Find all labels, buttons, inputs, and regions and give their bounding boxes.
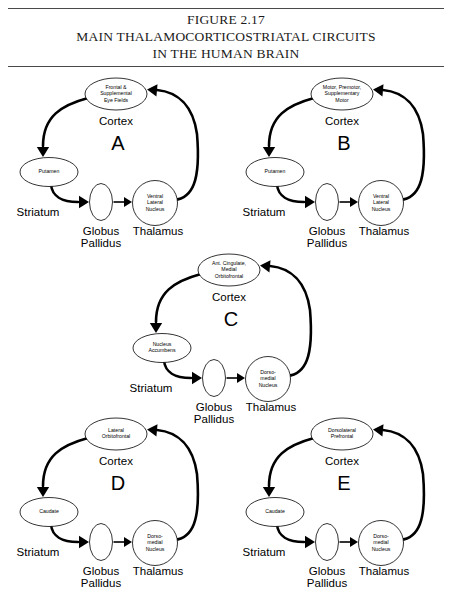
arrowhead-cortex-to-striatum [263, 487, 275, 497]
globus-pallidus-node-c[interactable] [203, 360, 226, 397]
globus-label: Globus [83, 565, 120, 577]
arrowhead-thalamus-to-cortex [147, 424, 158, 436]
globus-label: Globus [83, 225, 120, 237]
cortex-node-text-line-3: Motor [335, 97, 349, 103]
globus-pallidus-node-b[interactable] [316, 184, 339, 221]
thalamus-node-text-line-2: medial [260, 375, 275, 381]
arrowhead-striatum-to-globus-pallidus [79, 196, 89, 208]
globus-pallidus-node-e[interactable] [316, 524, 339, 561]
striatum-node-text-line-1: Nucleus [153, 341, 172, 347]
arrowhead-globus-pallidus-to-thalamus [124, 537, 132, 547]
cortex-node-text-line-1: Frontal & [105, 84, 127, 90]
arrow-cortex-to-striatum [269, 438, 314, 486]
circuit-diagram-e: DorsolateralPrefrontalCaudateDorso-media… [226, 412, 452, 588]
cortex-node-text-line-2: Supplementary [325, 90, 360, 96]
thalamus-label: Thalamus [359, 225, 410, 237]
cortex-node-text-line-1: Dorsolateral [328, 427, 356, 433]
striatum-label: Striatum [243, 206, 286, 218]
title-line-3: IN THE HUMAN BRAIN [0, 45, 452, 62]
thalamus-node-text-line-3: Nucleus [146, 546, 165, 552]
circuit-letter: C [224, 308, 238, 330]
circuit-c: Ant. Cingulate,MedialOrbitofrontalNucleu… [113, 248, 339, 424]
thalamus-node-text-line-1: Dorso- [260, 369, 276, 375]
arrowhead-thalamus-to-cortex [147, 84, 158, 96]
thalamus-node-text-line-1: Ventral [147, 193, 163, 199]
pallidus-label: Pallidus [81, 237, 122, 248]
thalamus-node-text-line-2: medial [373, 539, 388, 545]
cortex-node-text-line-3: Eye Fields [104, 97, 129, 103]
cortex-label: Cortex [99, 455, 133, 467]
pallidus-label: Pallidus [307, 577, 348, 588]
top-rule [8, 8, 444, 9]
arrowhead-globus-pallidus-to-thalamus [350, 537, 358, 547]
pallidus-label: Pallidus [307, 237, 348, 248]
cortex-label: Cortex [212, 291, 246, 303]
striatum-label: Striatum [130, 382, 173, 394]
figure-title: FIGURE 2.17 MAIN THALAMOCORTICOSTRIATAL … [0, 11, 452, 62]
striatum-label: Striatum [243, 546, 286, 558]
circuit-letter: E [337, 472, 350, 494]
arrowhead-thalamus-to-cortex [373, 424, 384, 436]
circuit-e: DorsolateralPrefrontalCaudateDorso-media… [226, 412, 452, 588]
thalamus-node-text-line-1: Dorso- [147, 533, 163, 539]
cortex-node-text-line-1: Lateral [108, 427, 124, 433]
thalamus-node-text-line-3: Nucleus [259, 382, 278, 388]
arrowhead-globus-pallidus-to-thalamus [350, 197, 358, 207]
arrowhead-striatum-to-globus-pallidus [192, 372, 202, 384]
thalamus-node-text-line-1: Ventral [373, 193, 389, 199]
cortex-node-text-line-2: Orbitofrontal [102, 433, 131, 439]
circuit-diagram-a: Frontal &SupplementalEye FieldsPutamenVe… [0, 72, 226, 248]
arrow-striatum-to-globus-pallidus [51, 185, 78, 203]
striatum-node-text-line-1: Putamen [265, 168, 286, 174]
thalamus-node-text-line-3: Nucleus [372, 206, 391, 212]
striatum-node-text-line-2: Accumbens [148, 347, 176, 353]
globus-pallidus-node-a[interactable] [90, 184, 113, 221]
cortex-node-text-line-2: Prefrontal [331, 433, 354, 439]
title-line-1: FIGURE 2.17 [0, 11, 452, 28]
thalamus-node-text-line-3: Nucleus [146, 206, 165, 212]
thalamus-label: Thalamus [133, 565, 184, 577]
arrowhead-globus-pallidus-to-thalamus [124, 197, 132, 207]
arrowhead-thalamus-to-cortex [373, 84, 384, 96]
arrowhead-striatum-to-globus-pallidus [305, 536, 315, 548]
striatum-node-text-line-1: Caudate [265, 508, 285, 514]
cortex-node-text-line-2: Supplemental [100, 90, 132, 96]
thalamus-label: Thalamus [359, 565, 410, 577]
circuit-diagram-b: Motor, Premotor,SupplementaryMotorPutame… [226, 72, 452, 248]
thalamus-node-text-line-2: Lateral [147, 199, 163, 205]
thalamus-node-text-line-1: Dorso- [373, 533, 389, 539]
arrowhead-cortex-to-striatum [263, 147, 275, 157]
thalamus-label: Thalamus [133, 225, 184, 237]
cortex-node-text-line-1: Ant. Cingulate, [212, 260, 246, 266]
cortex-node-text-line-3: Orbitofrontal [215, 273, 244, 279]
cortex-node-text-line-1: Motor, Premotor, [323, 84, 361, 90]
globus-label: Globus [309, 565, 346, 577]
striatum-node-text-line-1: Caudate [39, 508, 59, 514]
circuit-letter: A [111, 132, 125, 154]
arrow-striatum-to-globus-pallidus [277, 525, 304, 543]
globus-pallidus-node-d[interactable] [90, 524, 113, 561]
circuit-diagram-c: Ant. Cingulate,MedialOrbitofrontalNucleu… [113, 248, 339, 424]
arrow-striatum-to-globus-pallidus [277, 185, 304, 203]
circuit-diagram-d: LateralOrbitofrontalCaudateDorso-medialN… [0, 412, 226, 588]
thalamus-node-text-line-2: Lateral [373, 199, 389, 205]
striatum-node-text-line-1: Putamen [39, 168, 60, 174]
arrow-cortex-to-striatum [43, 438, 88, 486]
arrow-cortex-to-striatum [156, 274, 201, 322]
thalamus-node-text-line-2: medial [147, 539, 162, 545]
striatum-label: Striatum [17, 546, 60, 558]
pallidus-label: Pallidus [81, 577, 122, 588]
circuit-b: Motor, Premotor,SupplementaryMotorPutame… [226, 72, 452, 248]
arrowhead-cortex-to-striatum [37, 487, 49, 497]
circuit-letter: D [111, 472, 125, 494]
bottom-rule [8, 66, 444, 67]
cortex-label: Cortex [325, 455, 359, 467]
arrowhead-globus-pallidus-to-thalamus [237, 373, 245, 383]
thalamus-node-text-line-3: Nucleus [372, 546, 391, 552]
arrowhead-striatum-to-globus-pallidus [79, 536, 89, 548]
arrow-cortex-to-striatum [269, 98, 314, 146]
arrow-striatum-to-globus-pallidus [51, 525, 78, 543]
cortex-label: Cortex [99, 115, 133, 127]
globus-label: Globus [309, 225, 346, 237]
circuit-d: LateralOrbitofrontalCaudateDorso-medialN… [0, 412, 226, 588]
